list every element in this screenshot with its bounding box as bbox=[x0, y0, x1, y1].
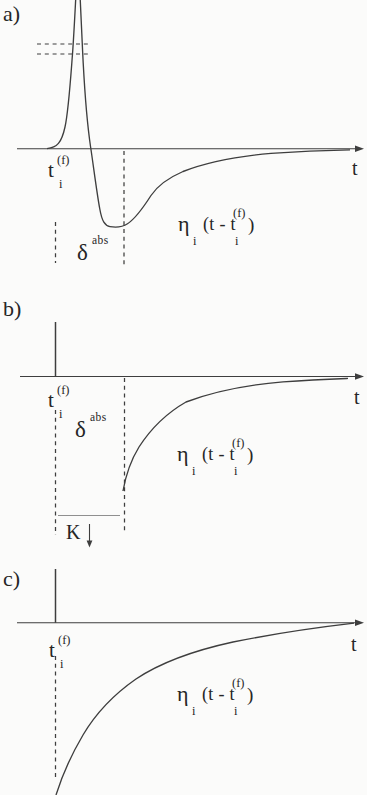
panel-c-spike-time-label: t (f) i bbox=[48, 633, 82, 673]
eta-arg-close: ) bbox=[247, 685, 253, 704]
panel-b-tag: b) bbox=[3, 298, 21, 320]
delta-sup: abs bbox=[92, 235, 109, 247]
panel-b-axis-arrow-icon bbox=[355, 373, 364, 379]
eta-arg-sup: (f) bbox=[232, 437, 245, 450]
eta-base-sub: i bbox=[192, 465, 195, 478]
spike-time-sup: (f) bbox=[57, 154, 70, 167]
eta-base: η bbox=[177, 443, 189, 465]
panel-c-tag: c) bbox=[3, 568, 20, 590]
delta-base: δ bbox=[77, 241, 88, 264]
panel-a-axis-label: t bbox=[352, 158, 358, 178]
panel-b-reset-amount-label: K bbox=[66, 522, 81, 542]
panel-a-axis-arrow-icon bbox=[355, 146, 364, 152]
panel-b-abs-refractory-label: δ abs bbox=[75, 411, 119, 443]
panel-a-spike-time-label: t (f) i bbox=[47, 153, 81, 193]
eta-arg-sub: i bbox=[235, 235, 238, 248]
panel-c-axis-label: t bbox=[351, 634, 357, 654]
panel-a-kernel-label: η i (t - t (f) i ) bbox=[178, 205, 270, 253]
eta-base-sub: i bbox=[192, 705, 195, 718]
eta-base: η bbox=[178, 213, 190, 235]
spike-time-sup: (f) bbox=[57, 384, 70, 397]
panel-b-kernel-label: η i (t - t (f) i ) bbox=[177, 435, 269, 483]
spike-time-base: t bbox=[48, 160, 54, 181]
eta-arg-close: ) bbox=[248, 215, 254, 234]
eta-base-sub: i bbox=[193, 235, 196, 248]
panel-a-abs-refractory-label: δ abs bbox=[77, 234, 121, 266]
delta-base: δ bbox=[75, 418, 86, 441]
eta-arg-sup: (f) bbox=[232, 677, 245, 690]
spike-time-sub: i bbox=[59, 408, 62, 421]
eta-arg-open: (t - t bbox=[203, 215, 236, 233]
panel-c-axis-arrow-icon bbox=[355, 620, 364, 626]
eta-arg-sub: i bbox=[234, 705, 237, 718]
eta-arg-sup: (f) bbox=[233, 207, 246, 220]
eta-arg-open: (t - t bbox=[202, 445, 235, 463]
panel-a-action-potential-curve bbox=[47, 0, 350, 227]
delta-sup: abs bbox=[90, 412, 107, 424]
panel-a-tag: a) bbox=[3, 3, 20, 25]
panel-c-kernel-label: η i (t - t (f) i ) bbox=[177, 675, 269, 723]
spike-time-sub: i bbox=[59, 178, 62, 191]
spike-time-base: t bbox=[49, 640, 55, 661]
eta-base: η bbox=[177, 683, 189, 705]
refractory-kernel-figure: a) t (f) i t δ abs η i (t - t (f) i ) b)… bbox=[0, 0, 367, 795]
spike-time-sub: i bbox=[60, 658, 63, 671]
eta-arg-sub: i bbox=[234, 465, 237, 478]
eta-arg-close: ) bbox=[247, 445, 253, 464]
panel-b-axis-label: t bbox=[354, 387, 360, 407]
eta-arg-open: (t - t bbox=[202, 685, 235, 703]
panel-b-reset-down-arrow-icon bbox=[87, 524, 93, 548]
spike-time-base: t bbox=[48, 390, 54, 411]
spike-time-sup: (f) bbox=[58, 634, 71, 647]
